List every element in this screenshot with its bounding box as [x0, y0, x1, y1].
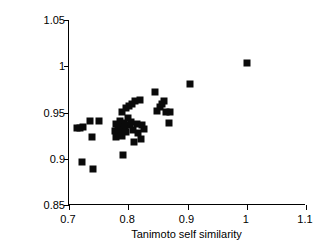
x-axis-tick-label: 0.8	[120, 213, 135, 225]
x-axis-tick-label: 1.1	[297, 213, 312, 225]
x-axis-tick-label: 0.9	[179, 213, 194, 225]
data-point	[119, 152, 126, 159]
data-point	[88, 133, 95, 140]
data-point	[167, 108, 174, 115]
data-point	[90, 165, 97, 172]
data-point	[136, 96, 143, 103]
x-axis-tick	[188, 205, 189, 210]
x-axis-tick	[306, 205, 307, 210]
y-axis-tick-label: 0.95	[44, 107, 65, 119]
data-point	[161, 98, 168, 105]
x-axis-tick	[69, 205, 70, 210]
data-point	[95, 117, 102, 124]
y-axis-tick-label: 0.85	[44, 199, 65, 211]
y-axis-tick-label: 1.05	[44, 14, 65, 26]
data-point	[80, 124, 87, 131]
data-point	[187, 80, 194, 87]
data-points-layer	[69, 20, 305, 204]
x-axis-tick	[247, 205, 248, 210]
data-point	[79, 158, 86, 165]
scatter-chart-figure: 0.850.90.9511.050.70.80.911.1 Tanimoto s…	[0, 0, 322, 251]
y-axis-tick-label: 0.9	[50, 153, 65, 165]
x-axis-tick	[128, 205, 129, 210]
x-axis-tick-label: 1	[243, 213, 249, 225]
data-point	[87, 117, 94, 124]
data-point	[140, 126, 147, 133]
data-point	[243, 60, 250, 67]
plot-frame	[68, 20, 305, 205]
data-point	[165, 119, 172, 126]
data-point	[151, 89, 158, 96]
data-point	[137, 136, 144, 143]
y-axis-tick-label: 1	[59, 60, 65, 72]
x-axis-tick-label: 0.7	[60, 213, 75, 225]
x-axis-title: Tanimoto self similarity	[68, 228, 305, 240]
